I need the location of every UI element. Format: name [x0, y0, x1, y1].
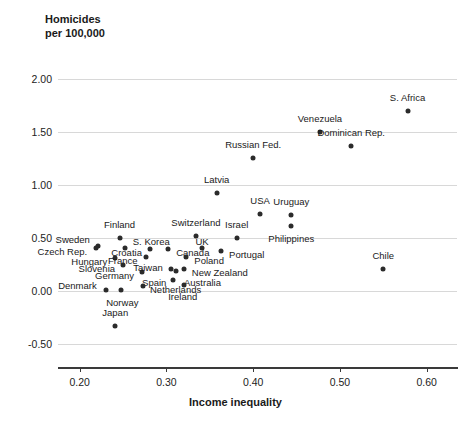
- data-point[interactable]: [94, 246, 99, 251]
- data-point[interactable]: [171, 278, 176, 283]
- data-point[interactable]: [214, 190, 219, 195]
- x-axis-tick-mark: [427, 367, 428, 372]
- data-point[interactable]: [121, 263, 126, 268]
- data-point-label: Venezuela: [298, 114, 342, 124]
- data-point-label: Finland: [104, 220, 135, 230]
- data-point[interactable]: [184, 255, 189, 260]
- y-axis-tick-label: 1.00: [32, 179, 52, 191]
- data-point[interactable]: [113, 324, 118, 329]
- x-axis-line: [58, 367, 458, 369]
- x-axis-title: Income inequality: [0, 396, 471, 408]
- data-point[interactable]: [289, 224, 294, 229]
- y-axis-tick-label: 0.00: [32, 285, 52, 297]
- data-point[interactable]: [251, 156, 256, 161]
- y-axis-title-line-1: Homicides: [45, 12, 105, 26]
- data-point-label: UK: [195, 237, 208, 247]
- gridline-y: [58, 185, 457, 186]
- x-axis-tick-label: 0.20: [69, 376, 89, 388]
- y-axis-title-line-2: per 100,000: [45, 26, 105, 40]
- data-point-label: S. Africa: [390, 93, 425, 103]
- data-point-label: USA: [250, 196, 270, 206]
- data-point[interactable]: [119, 287, 124, 292]
- data-point-label: Japan: [102, 308, 128, 318]
- y-axis-tick-label: 1.50: [32, 126, 52, 138]
- data-point-label: Norway: [106, 298, 138, 308]
- x-axis-tick-mark: [340, 367, 341, 372]
- data-point[interactable]: [234, 236, 239, 241]
- y-axis-tick-label: -0.50: [28, 338, 52, 350]
- data-point[interactable]: [166, 246, 171, 251]
- x-axis-tick-label: 0.30: [156, 376, 176, 388]
- data-point[interactable]: [173, 269, 178, 274]
- data-point[interactable]: [117, 235, 122, 240]
- data-point-label: Denmark: [58, 281, 97, 291]
- data-point[interactable]: [219, 248, 224, 253]
- plot-area: S. AfricaVenezuelaDominican Rep.Russian …: [58, 60, 457, 357]
- data-point-label: Chile: [372, 251, 394, 261]
- x-axis-tick-label: 0.50: [330, 376, 350, 388]
- data-point-label: Ireland: [168, 292, 197, 302]
- data-point-label: Sweden: [56, 235, 90, 245]
- data-point-label: Poland: [194, 256, 224, 266]
- data-point-label: Philippines: [268, 234, 314, 244]
- y-axis-tick-label: 0.50: [32, 232, 52, 244]
- data-point-label: Uruguay: [273, 197, 309, 207]
- data-point-label: Dominican Rep.: [317, 128, 385, 138]
- x-axis-tick-mark: [80, 367, 81, 372]
- data-point[interactable]: [405, 109, 410, 114]
- data-point-label: Switzerland: [171, 218, 220, 228]
- data-point[interactable]: [381, 267, 386, 272]
- gridline-y: [58, 291, 457, 292]
- data-point[interactable]: [141, 284, 146, 289]
- x-axis-tick-label: 0.40: [243, 376, 263, 388]
- y-axis-tick-label: 2.00: [32, 73, 52, 85]
- data-point[interactable]: [258, 212, 263, 217]
- data-point-label: Germany: [95, 271, 134, 281]
- data-point[interactable]: [349, 143, 354, 148]
- x-axis-tick-label: 0.60: [416, 376, 436, 388]
- homicides-income-inequality-scatter-chart: Homicides per 100,000 2.001.501.000.500.…: [0, 0, 471, 433]
- y-axis-title: Homicides per 100,000: [45, 12, 105, 40]
- y-axis-tick-labels: 2.001.501.000.500.00-0.50: [0, 60, 52, 357]
- gridline-y: [58, 79, 457, 80]
- data-point[interactable]: [289, 212, 294, 217]
- data-point-label: Israel: [225, 220, 248, 230]
- gridline-y: [58, 344, 457, 345]
- x-axis-tick-mark: [166, 367, 167, 372]
- gridline-y: [58, 132, 457, 133]
- data-point[interactable]: [103, 287, 108, 292]
- data-point[interactable]: [143, 254, 148, 259]
- data-point-label: Latvia: [204, 175, 229, 185]
- data-point-label: Portugal: [229, 250, 264, 260]
- data-point[interactable]: [147, 246, 152, 251]
- data-point[interactable]: [181, 267, 186, 272]
- x-axis-tick-mark: [253, 367, 254, 372]
- data-point-label: Taiwan: [133, 263, 163, 273]
- data-point-label: Russian Fed.: [225, 140, 281, 150]
- data-point[interactable]: [181, 282, 186, 287]
